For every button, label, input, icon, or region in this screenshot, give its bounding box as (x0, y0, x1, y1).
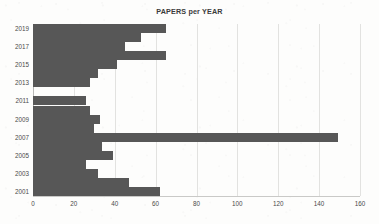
bar-2019 (33, 24, 166, 33)
bar-2001 (33, 187, 160, 196)
x-tick-0: 0 (31, 200, 35, 207)
y-tick-2011: 2011 (0, 97, 29, 104)
bar-row (33, 151, 360, 160)
bar-row (33, 160, 360, 169)
bar-row (33, 142, 360, 151)
bar-row (33, 187, 360, 196)
y-tick-2003: 2003 (0, 170, 29, 177)
bar-2010 (33, 106, 90, 115)
bar-row (33, 87, 360, 96)
bar-2015 (33, 60, 117, 69)
bar-row (33, 42, 360, 51)
y-tick-2015: 2015 (0, 61, 29, 68)
x-tick-60: 60 (152, 200, 159, 207)
bar-chart-figure: PAPERS per YEAR 201920172015201320112009… (0, 0, 379, 224)
plot-area (33, 24, 360, 196)
y-tick-2007: 2007 (0, 134, 29, 141)
bar-2002 (33, 178, 129, 187)
bar-2006 (33, 142, 102, 151)
bar-row (33, 106, 360, 115)
x-axis-line (33, 196, 360, 197)
x-tick-100: 100 (232, 200, 243, 207)
bar-2005 (33, 151, 113, 160)
x-tick-80: 80 (193, 200, 200, 207)
bar-2017 (33, 42, 125, 51)
chart-title: PAPERS per YEAR (0, 7, 379, 16)
x-tick-160: 160 (355, 200, 366, 207)
x-tick-40: 40 (111, 200, 118, 207)
y-tick-2001: 2001 (0, 188, 29, 195)
bar-row (33, 33, 360, 42)
x-tick-120: 120 (273, 200, 284, 207)
bar-row (33, 178, 360, 187)
bar-2009 (33, 115, 100, 124)
bar-row (33, 78, 360, 87)
bar-2014 (33, 69, 98, 78)
bar-2003 (33, 169, 98, 178)
bar-row (33, 24, 360, 33)
x-tick-20: 20 (70, 200, 77, 207)
y-tick-2009: 2009 (0, 116, 29, 123)
gridline-160 (360, 24, 361, 196)
bar-row (33, 115, 360, 124)
bar-row (33, 60, 360, 69)
bar-2004 (33, 160, 86, 169)
bar-row (33, 169, 360, 178)
bar-row (33, 69, 360, 78)
bar-2008 (33, 124, 94, 133)
y-tick-2019: 2019 (0, 25, 29, 32)
bar-row (33, 96, 360, 105)
bar-2018 (33, 33, 141, 42)
bar-row (33, 133, 360, 142)
y-tick-2013: 2013 (0, 79, 29, 86)
y-tick-2017: 2017 (0, 43, 29, 50)
bar-row (33, 124, 360, 133)
x-axis-tick-labels: 020406080100120140160 (33, 200, 360, 212)
bar-row (33, 51, 360, 60)
bar-2013 (33, 78, 90, 87)
bar-2007 (33, 133, 338, 142)
bar-2011 (33, 96, 86, 105)
x-tick-140: 140 (314, 200, 325, 207)
y-tick-2005: 2005 (0, 152, 29, 159)
bar-2016 (33, 51, 166, 60)
y-axis-tick-labels: 2019201720152013201120092007200520032001 (0, 24, 29, 196)
